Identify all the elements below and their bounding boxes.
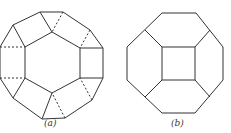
diagram-canvas xyxy=(0,0,231,133)
caption-a: (a) xyxy=(44,118,56,128)
caption-b: (b) xyxy=(171,118,184,128)
solid-edge xyxy=(13,25,25,47)
connector-edge xyxy=(195,30,210,47)
connector-edge xyxy=(145,80,162,97)
dashed-edge xyxy=(80,78,92,100)
solid-edge xyxy=(42,93,52,119)
dashed-edge xyxy=(80,30,90,48)
connector-edge xyxy=(145,30,162,47)
connector-edge xyxy=(195,80,210,97)
outer-octagon xyxy=(127,13,223,113)
figure-a xyxy=(0,12,103,119)
inner-square xyxy=(162,47,195,80)
figure-b xyxy=(127,13,223,113)
outer-dodecagon xyxy=(0,12,103,119)
dashed-edge xyxy=(52,93,65,118)
solid-edge xyxy=(13,78,25,98)
solid-edge xyxy=(40,12,52,32)
inner-hexagon xyxy=(25,32,80,93)
dashed-edge xyxy=(52,12,63,32)
